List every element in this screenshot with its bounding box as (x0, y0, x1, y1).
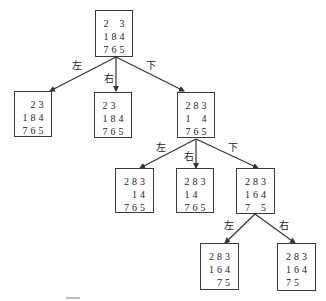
puzzle-tile: 7 (123, 201, 130, 214)
puzzle-grid: 28314765 (178, 99, 214, 138)
state-node-n4: 28314765 (115, 168, 154, 213)
puzzle-tile: 6 (30, 124, 37, 137)
puzzle-tile: 1 (102, 112, 109, 125)
state-node-n8: 28316475 (277, 243, 316, 291)
blank-tile (22, 98, 29, 111)
puzzle-grid: 28314765 (116, 175, 153, 214)
puzzle-tile: 3 (110, 99, 117, 112)
puzzle-tile: 8 (111, 30, 118, 43)
puzzle-tile: 3 (224, 250, 231, 263)
search-tree-diagram: 2318476523184765231847652831476528314765… (0, 0, 326, 301)
state-node-n7: 28316475 (200, 243, 239, 290)
puzzle-tile: 4 (301, 263, 308, 276)
puzzle-grid: 23184765 (15, 98, 51, 137)
move-label: 左 (72, 61, 82, 71)
puzzle-tile: 7 (103, 43, 110, 56)
puzzle-grid: 23184765 (96, 17, 132, 56)
puzzle-tile: 7 (244, 201, 251, 214)
state-node-n6: 28316475 (236, 168, 275, 214)
puzzle-tile: 5 (293, 276, 300, 289)
puzzle-grid: 28316475 (237, 175, 274, 214)
puzzle-tile: 5 (38, 124, 45, 137)
puzzle-tile: 7 (184, 201, 191, 214)
puzzle-tile: 5 (118, 125, 125, 138)
move-label: 右 (184, 152, 194, 162)
puzzle-tile: 8 (252, 175, 259, 188)
puzzle-tile: 7 (102, 125, 109, 138)
puzzle-tile: 1 (285, 263, 292, 276)
blank-tile (118, 99, 125, 112)
puzzle-tile: 2 (244, 175, 251, 188)
move-label: 左 (224, 221, 234, 231)
move-label: 下 (228, 143, 238, 153)
puzzle-tile: 2 (208, 250, 215, 263)
puzzle-tile: 4 (260, 188, 267, 201)
puzzle-tile: 2 (185, 99, 192, 112)
puzzle-grid: 28314765 (177, 175, 213, 214)
puzzle-tile: 6 (293, 263, 300, 276)
puzzle-tile: 1 (22, 111, 29, 124)
puzzle-tile: 8 (131, 175, 138, 188)
puzzle-tile: 1 (244, 188, 251, 201)
puzzle-tile: 8 (193, 99, 200, 112)
edge-arrow (255, 214, 295, 243)
puzzle-tile: 5 (260, 201, 267, 214)
puzzle-tile: 8 (110, 112, 117, 125)
puzzle-tile: 4 (201, 112, 208, 125)
puzzle-tile: 3 (200, 175, 207, 188)
puzzle-tile: 4 (119, 30, 126, 43)
state-node-root: 23184765 (95, 10, 133, 57)
state-node-n3: 28314765 (177, 92, 215, 138)
puzzle-tile: 6 (110, 125, 117, 138)
puzzle-tile: 2 (123, 175, 130, 188)
puzzle-tile: 3 (260, 175, 267, 188)
puzzle-tile: 6 (111, 43, 118, 56)
puzzle-tile: 3 (139, 175, 146, 188)
puzzle-tile: 6 (192, 201, 199, 214)
puzzle-tile: 6 (216, 263, 223, 276)
puzzle-tile: 5 (224, 276, 231, 289)
move-label: 下 (146, 61, 156, 71)
blank-tile (252, 201, 259, 214)
puzzle-tile: 4 (224, 263, 231, 276)
puzzle-tile: 3 (119, 17, 126, 30)
state-node-n5: 28314765 (176, 168, 214, 213)
puzzle-tile: 8 (30, 111, 37, 124)
puzzle-tile: 5 (201, 125, 208, 138)
state-node-n1: 23184765 (14, 91, 52, 137)
state-node-n2: 23184765 (94, 92, 132, 138)
puzzle-tile: 2 (285, 250, 292, 263)
puzzle-grid: 28316475 (278, 250, 315, 289)
move-label: 右 (104, 74, 114, 84)
puzzle-tile: 3 (38, 98, 45, 111)
puzzle-tile: 4 (118, 112, 125, 125)
puzzle-tile: 8 (216, 250, 223, 263)
puzzle-tile: 7 (216, 276, 223, 289)
caption-fragment (66, 297, 80, 299)
puzzle-tile: 3 (201, 99, 208, 112)
puzzle-tile: 2 (184, 175, 191, 188)
puzzle-tile: 5 (119, 43, 126, 56)
puzzle-tile: 4 (38, 111, 45, 124)
blank-tile (193, 112, 200, 125)
blank-tile (123, 188, 130, 201)
blank-tile (111, 17, 118, 30)
puzzle-tile: 7 (22, 124, 29, 137)
puzzle-tile: 8 (192, 175, 199, 188)
puzzle-tile: 4 (192, 188, 199, 201)
puzzle-tile: 1 (131, 188, 138, 201)
puzzle-tile: 1 (103, 30, 110, 43)
puzzle-grid: 28316475 (201, 250, 238, 289)
puzzle-tile: 7 (285, 276, 292, 289)
puzzle-tile: 8 (293, 250, 300, 263)
puzzle-tile: 5 (200, 201, 207, 214)
puzzle-tile: 1 (208, 263, 215, 276)
puzzle-tile: 4 (139, 188, 146, 201)
puzzle-tile: 2 (30, 98, 37, 111)
blank-tile (301, 276, 308, 289)
puzzle-tile: 2 (102, 99, 109, 112)
puzzle-tile: 6 (193, 125, 200, 138)
blank-tile (200, 188, 207, 201)
puzzle-tile: 7 (185, 125, 192, 138)
puzzle-tile: 5 (139, 201, 146, 214)
